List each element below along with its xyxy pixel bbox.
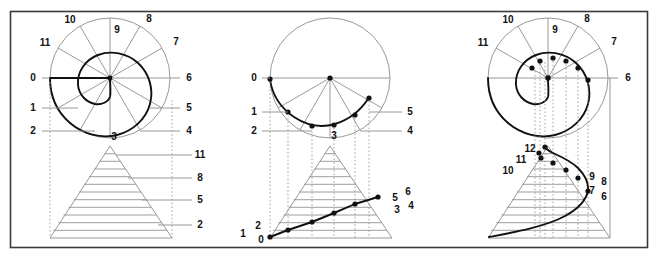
panel-1-band-label-8: 8 [197,172,203,183]
panel-2-label-3: 3 [331,130,337,141]
panel-1-label-1: 1 [30,102,36,113]
panel-2-dot-3 [331,122,336,127]
panel-1-label-9: 9 [114,24,120,35]
panel-2-dot-4 [352,112,357,117]
panel-3-label-7: 7 [611,36,617,47]
panel-2-dot-2 [309,123,314,128]
panel-1-label-0: 0 [30,72,36,83]
panel-2-label-2: 2 [251,125,257,136]
panel-3-label-11: 11 [478,37,489,48]
panel-3-plot-label-10: 10 [502,165,514,176]
panel-3-plot-label-11: 11 [516,154,527,165]
panel-3-plot-dot-8 [563,167,568,172]
panel-3-label-10: 10 [502,14,514,25]
panel-3-plot-label-6: 6 [601,191,607,202]
panel-3-label-8: 8 [584,13,590,24]
panel-1-label-6: 6 [186,72,192,83]
panel-3-plot-dot-11 [536,150,541,155]
panel-2-plot-label-1: 1 [240,228,246,239]
panel-1-band-label-2: 2 [197,219,203,230]
panel-2-plot-label-6: 6 [405,186,411,197]
panel-1-band-label-5: 5 [197,194,203,205]
panel-3-dot-12 [545,75,551,81]
panel-2-plot-label-4: 4 [408,200,414,211]
panel-2-plot-label-5: 5 [392,192,398,203]
panel-1-label-3: 3 [111,131,117,142]
panel-2-center-dot [327,75,332,80]
panel-3-dot-8 [563,58,568,63]
panel-2-plot-dot-5 [375,194,380,199]
panel-3-label-6: 6 [625,72,631,83]
panel-2-plot-label-2: 2 [255,220,261,231]
panel-1-label-7: 7 [173,36,179,47]
panel-3-plot-dot-12 [542,144,547,149]
panel-3-dot-11 [529,65,534,70]
panel-2-plot-dot-2 [309,219,314,224]
panel-1-center-dot [108,76,113,81]
panel-1-band-label-11: 11 [195,149,206,160]
panel-2-label-5: 5 [407,106,413,117]
panel-1-label-2: 2 [30,125,36,136]
panel-1-label-8: 8 [146,13,152,24]
panel-3-dot-9 [550,55,555,60]
figure-canvas: 0 1 2 3 4 5 6 7 8 9 10 11 11 8 5 2 [0,0,658,258]
panel-2-plot-label-3: 3 [394,204,400,215]
panel-1-label-4: 4 [186,125,192,136]
panel-3-plot-dot-7 [575,175,580,180]
panel-2-plot-dot-4 [352,201,357,206]
panel-1-label-11: 11 [40,37,51,48]
panel-2-label-4: 4 [407,125,413,136]
panel-2-plot-dot-0 [267,234,272,239]
panel-3-plot-label-12: 12 [524,143,536,154]
panel-2-dot-0 [267,76,272,81]
panel-2-plot-dot-1 [285,227,290,232]
panel-2-label-0: 0 [251,72,257,83]
panel-2-plot-dot-3 [331,210,336,215]
panel-3-label-9: 9 [552,24,558,35]
panel-3-dot-7 [575,65,580,70]
panel-3-dot-10 [537,58,542,63]
panel-2-plot-label-0: 0 [258,234,264,245]
panel-2-label-1: 1 [251,106,257,117]
panel-3-plot-label-7: 7 [589,185,595,196]
panel-3-dot-6 [585,77,590,82]
panel-3-plot-label-8: 8 [601,176,607,187]
panel-3-plot-label-9: 9 [589,171,595,182]
panel-2-dot-5 [366,95,371,100]
panel-3-plot-dot-10 [538,155,543,160]
panel-1-label-10: 10 [64,14,76,25]
panel-3-plot-dot-9 [550,160,555,165]
figure-root: 0 1 2 3 4 5 6 7 8 9 10 11 11 8 5 2 [0,0,658,258]
panel-1-label-5: 5 [186,102,192,113]
